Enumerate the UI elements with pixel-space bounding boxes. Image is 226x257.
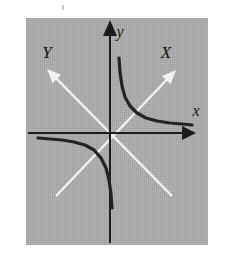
figure-container: x y X Y (0, 0, 226, 257)
speck-artifact (62, 5, 64, 10)
rotated-axis-X-label: X (160, 43, 172, 62)
diagram-canvas: x y X Y (0, 0, 226, 257)
y-axis-label: y (114, 23, 124, 41)
rotated-axis-Y-label: Y (42, 43, 53, 62)
x-axis-label: x (191, 102, 199, 119)
